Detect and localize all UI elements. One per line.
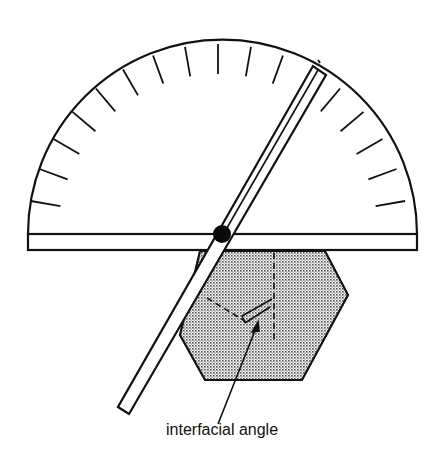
interfacial-angle-label: interfacial angle [166,421,278,439]
pivot-pin [213,225,231,243]
protractor-arc [28,40,417,234]
goniometer-diagram [0,0,435,469]
